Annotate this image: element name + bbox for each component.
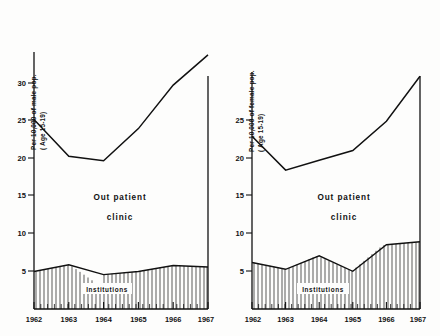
y-tick-25-male: 25 xyxy=(18,116,27,125)
x-label-1963-female: 1963 xyxy=(277,315,293,324)
y-axis-tick-labels-male: 30 25 20 15 10 5 xyxy=(18,79,27,276)
y-tick-15-male: 15 xyxy=(18,191,27,200)
institutions-label-group-male: Institutions xyxy=(82,283,132,294)
outpatient-line-female xyxy=(252,76,420,170)
chart-panel-male: Per 10,000 of male pop. ( Age 15-19) 30 … xyxy=(0,0,220,336)
outpatient-label-line2-male: clinic xyxy=(107,213,133,222)
outpatient-label-line2-female: clinic xyxy=(331,213,357,222)
y-tick-20-female: 20 xyxy=(236,154,244,163)
x-label-1966-male: 1966 xyxy=(165,315,181,324)
figure-container: Per 10,000 of male pop. ( Age 15-19) 30 … xyxy=(0,0,440,336)
outpatient-label-group-female: Out patient clinic xyxy=(317,193,370,222)
x-label-1962-male: 1962 xyxy=(26,315,42,324)
outpatient-line-male xyxy=(34,55,208,161)
x-label-1964-female: 1964 xyxy=(311,315,328,324)
y-tick-15-female: 15 xyxy=(236,191,245,200)
outpatient-label-group-male: Out patient clinic xyxy=(93,193,146,222)
y-tick-20-male: 20 xyxy=(18,154,26,163)
chart-panel-female: Per 10,000 of female pop. ( Age 15-19) 2… xyxy=(220,0,440,336)
y-tick-30-male: 30 xyxy=(18,79,26,88)
institutions-label-male: Institutions xyxy=(86,286,128,293)
x-axis-minor-ticks-female xyxy=(259,304,411,309)
institutions-label-female: Institutions xyxy=(302,286,344,293)
x-label-1963-male: 1963 xyxy=(61,315,77,324)
x-label-1965-female: 1965 xyxy=(345,315,361,324)
x-label-1967-male: 1967 xyxy=(198,315,214,324)
y-tick-5-female: 5 xyxy=(240,267,245,276)
x-axis-major-ticks-female xyxy=(252,302,420,309)
y-tick-10-female: 10 xyxy=(236,229,244,238)
y-axis-tick-labels-female: 25 20 15 10 5 xyxy=(236,116,245,276)
institutions-hatching-female xyxy=(254,242,419,309)
x-axis-year-labels-male: 1962 1963 1964 1965 1966 1967 xyxy=(26,315,214,324)
y-tick-10-male: 10 xyxy=(18,229,26,238)
x-label-1967-female: 1967 xyxy=(410,315,426,324)
y-tick-25-female: 25 xyxy=(236,116,245,125)
outpatient-label-line1-male: Out patient xyxy=(93,193,146,202)
institutions-label-group-female: Institutions xyxy=(297,283,349,294)
outpatient-label-line1-female: Out patient xyxy=(317,193,370,202)
x-label-1966-female: 1966 xyxy=(378,315,394,324)
institutions-line-female xyxy=(252,242,420,271)
x-label-1964-male: 1964 xyxy=(95,315,112,324)
x-label-1965-male: 1965 xyxy=(130,315,146,324)
x-axis-year-labels-female: 1962 1963 1964 1965 1966 1967 xyxy=(245,315,426,324)
y-axis-title-line2-male: ( Age 15-19) xyxy=(39,112,47,150)
x-label-1962-female: 1962 xyxy=(245,315,261,324)
y-tick-5-male: 5 xyxy=(22,267,27,276)
y-axis-title-female: Per 10,000 of female pop. ( Age 15-19) xyxy=(248,70,265,152)
y-axis-title-male: Per 10,000 of male pop. ( Age 15-19) xyxy=(30,74,47,150)
